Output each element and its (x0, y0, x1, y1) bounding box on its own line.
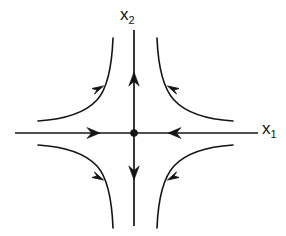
trajectory-lower-left (38, 145, 113, 228)
phase-portrait-figure: x2 x1 (0, 0, 286, 236)
trajectory-upper-left (38, 38, 113, 121)
trajectory-upper-right (157, 38, 233, 121)
x-axis-label-base: x (262, 119, 271, 138)
x-axis-label: x1 (262, 120, 277, 137)
axes-group (15, 30, 258, 226)
x-axis-label-subscript: 1 (271, 128, 277, 140)
trajectory-lower-right (157, 145, 233, 228)
y-axis-label-base: x (120, 5, 129, 24)
y-axis-label: x2 (120, 6, 135, 23)
y-axis-label-subscript: 2 (129, 14, 135, 26)
phase-portrait-canvas (0, 0, 286, 236)
equilibrium-point-origin (130, 129, 137, 136)
